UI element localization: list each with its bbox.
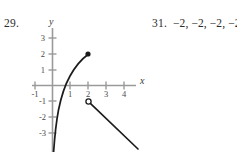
- exercise-31-answer: −2, −2, −2, −2: [173, 17, 237, 29]
- y-tick-label-2: 2: [41, 49, 45, 59]
- exercise-31-number: 31.: [152, 17, 167, 29]
- closed-endpoint-dot: [85, 51, 90, 56]
- exercise-29-graph: -1 1 2 3 4 3 2 1 -1 -2 -3 x y: [0, 0, 160, 152]
- y-axis-label: y: [48, 16, 54, 27]
- y-tick-label--2: -2: [39, 112, 46, 122]
- y-tick-label--1: -1: [39, 96, 46, 106]
- y-tick-label-3: 3: [41, 33, 45, 43]
- worksheet-page: 29. -: [0, 0, 237, 152]
- x-tick-label-4: 4: [122, 89, 127, 99]
- x-tick-label-1: 1: [68, 89, 72, 99]
- x-tick-label--1: -1: [31, 89, 38, 99]
- line-branch-2: [91, 104, 138, 149]
- x-axis-label: x: [139, 75, 145, 86]
- curve-branch-1: [54, 55, 88, 153]
- x-tick-label-3: 3: [104, 89, 108, 99]
- y-tick-label--3: -3: [39, 128, 46, 138]
- coordinate-plane-svg: -1 1 2 3 4 3 2 1 -1 -2 -3 x y: [0, 0, 160, 152]
- x-tick-label-2: 2: [86, 89, 90, 99]
- y-tick-label-1: 1: [41, 65, 45, 75]
